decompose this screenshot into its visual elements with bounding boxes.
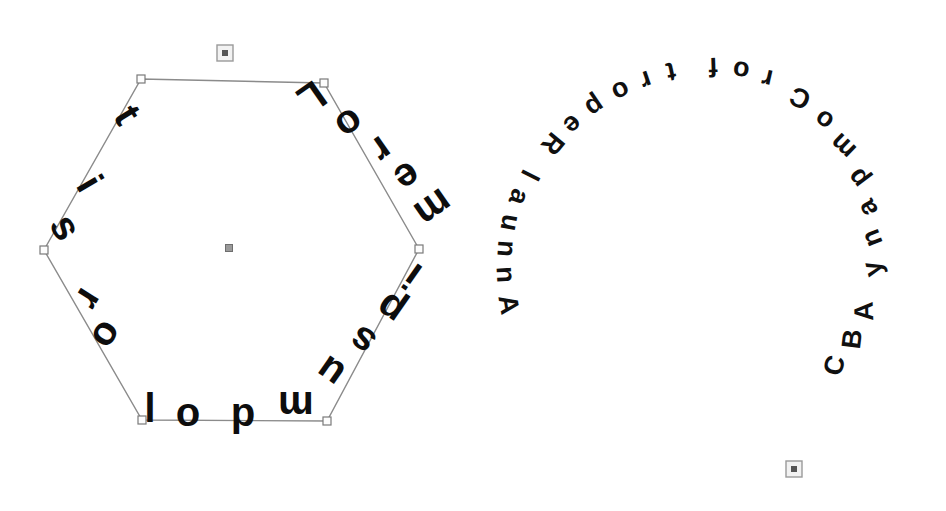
path-glyph: o: [731, 55, 751, 87]
path-glyph: n: [491, 266, 522, 284]
path-glyph: o: [808, 103, 839, 137]
path-glyph: y: [856, 258, 889, 280]
editor-canvas[interactable]: Loremipsumdolorsit AnnualReportforCompan…: [0, 0, 946, 511]
path-glyph: C: [785, 80, 815, 115]
rotation-handle[interactable]: [786, 461, 802, 477]
path-glyph: o: [607, 74, 635, 108]
hexagon-text-object[interactable]: Loremipsumdolorsit: [40, 45, 461, 440]
path-glyph: d: [231, 396, 255, 440]
canvas-svg[interactable]: Loremipsumdolorsit AnnualReportforCompan…: [0, 0, 946, 511]
circle-glyph-group: AnnualReportforCompanyABC: [491, 52, 889, 379]
center-handle[interactable]: [226, 245, 233, 252]
path-glyph: p: [841, 163, 875, 194]
path-glyph: u: [495, 212, 528, 234]
circle-text-object[interactable]: AnnualReportforCompanyABC: [491, 52, 889, 477]
path-glyph: B: [836, 327, 868, 350]
vertex-handle[interactable]: [320, 79, 328, 87]
vertex-handle[interactable]: [137, 75, 145, 83]
rotation-handle[interactable]: [217, 45, 233, 61]
vertex-handle[interactable]: [138, 416, 146, 424]
path-glyph: m: [278, 384, 314, 428]
path-glyph: e: [557, 109, 588, 141]
path-glyph: A: [849, 301, 880, 322]
path-glyph: o: [176, 396, 200, 440]
hexagon-glyph-group: Loremipsumdolorsit: [42, 72, 462, 440]
path-glyph: l: [515, 165, 545, 185]
path-glyph: i: [68, 167, 112, 199]
path-glyph: a: [850, 194, 884, 223]
path-glyph: t: [663, 56, 678, 87]
path-glyph: r: [67, 281, 113, 318]
path-glyph: R: [535, 127, 571, 161]
path-glyph: a: [502, 185, 536, 210]
path-glyph: C: [817, 352, 851, 379]
path-glyph: o: [83, 313, 133, 357]
path-glyph: r: [758, 63, 775, 95]
path-glyph: A: [492, 292, 525, 316]
path-glyph: f: [707, 52, 718, 82]
path-glyph: m: [824, 127, 862, 165]
vertex-handle[interactable]: [40, 246, 48, 254]
path-glyph: n: [491, 239, 522, 258]
vertex-handle[interactable]: [415, 245, 423, 253]
vertex-handle[interactable]: [323, 417, 331, 425]
path-glyph: n: [855, 225, 889, 251]
path-glyph: r: [636, 65, 656, 97]
path-glyph: p: [580, 89, 610, 123]
